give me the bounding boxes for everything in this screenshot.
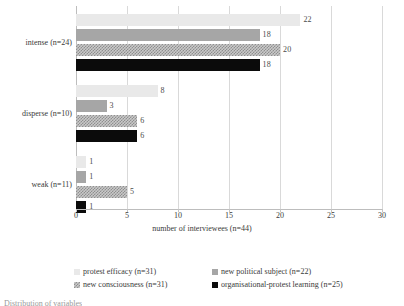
bar-row: 1	[76, 156, 382, 168]
x-tick-label-15: 15	[225, 211, 233, 220]
bar[interactable]	[76, 14, 300, 26]
legend-item-new-consciousness: new consciousness (n=31)	[74, 278, 206, 291]
x-axis-title: number of interviewees (n=44)	[0, 224, 404, 233]
legend-label: new consciousness (n=31)	[83, 280, 168, 289]
chart-legend: protest efficacy (n=31) new political su…	[74, 265, 374, 291]
legend-label: new political subject (n=22)	[221, 267, 311, 276]
bar[interactable]	[76, 156, 86, 168]
legend-swatch-icon	[212, 269, 218, 275]
bar-value-label: 8	[158, 86, 165, 95]
gridline-30	[382, 6, 383, 209]
bar-value-label: 18	[260, 30, 271, 39]
plot-area: 2218201883661151	[76, 6, 382, 209]
legend-swatch-icon	[74, 269, 80, 275]
bar-value-label: 18	[260, 60, 271, 69]
bar-value-label: 5	[127, 187, 134, 196]
x-tick-label-25: 25	[327, 211, 335, 220]
legend-item-protest-efficacy: protest efficacy (n=31)	[74, 265, 206, 278]
category-label: weak (n=11)	[0, 180, 72, 189]
figure-caption: Distribution of variables	[4, 299, 82, 306]
bar-row: 18	[76, 59, 382, 71]
bar-row: 3	[76, 100, 382, 112]
bar[interactable]	[76, 29, 260, 41]
x-tick-label-20: 20	[276, 211, 284, 220]
bar-value-label: 22	[300, 15, 311, 24]
bar-value-label: 1	[86, 172, 93, 181]
bar-row: 8	[76, 85, 382, 97]
category-label: intense (n=24)	[0, 38, 72, 47]
x-tick-label-10: 10	[174, 211, 182, 220]
bar-group: 1151	[76, 156, 382, 216]
chart-container: 2218201883661151 051015202530 number of …	[0, 0, 404, 306]
bar-value-label: 3	[107, 101, 114, 110]
legend-item-new-political-subject: new political subject (n=22)	[212, 265, 374, 278]
bar-row: 6	[76, 130, 382, 142]
legend-label: organisational-protest learning (n=25)	[221, 280, 343, 289]
category-label: disperse (n=10)	[0, 109, 72, 118]
bar-value-label: 6	[137, 131, 144, 140]
bar-group: 8366	[76, 85, 382, 145]
bar-value-label: 1	[86, 157, 93, 166]
bar-row: 5	[76, 186, 382, 198]
legend-label: protest efficacy (n=31)	[83, 267, 156, 276]
bar[interactable]	[76, 85, 158, 97]
bar-row: 18	[76, 29, 382, 41]
bar-row: 20	[76, 44, 382, 56]
bar-value-label: 6	[137, 116, 144, 125]
bar[interactable]	[76, 115, 137, 127]
bar-group: 22182018	[76, 14, 382, 74]
bar[interactable]	[76, 44, 280, 56]
x-tick-label-30: 30	[378, 211, 386, 220]
bar-value-label: 20	[280, 45, 291, 54]
legend-item-organisational-protest-learning: organisational-protest learning (n=25)	[212, 278, 374, 291]
bar-row: 6	[76, 115, 382, 127]
legend-swatch-icon	[212, 282, 218, 288]
bar[interactable]	[76, 171, 86, 183]
bar-row: 1	[76, 171, 382, 183]
bar[interactable]	[76, 59, 260, 71]
x-tick-label-0: 0	[74, 211, 78, 220]
x-tick-label-5: 5	[125, 211, 129, 220]
bar[interactable]	[76, 186, 127, 198]
bar[interactable]	[76, 100, 107, 112]
bar[interactable]	[76, 130, 137, 142]
legend-swatch-icon	[74, 282, 80, 288]
bar-row: 22	[76, 14, 382, 26]
